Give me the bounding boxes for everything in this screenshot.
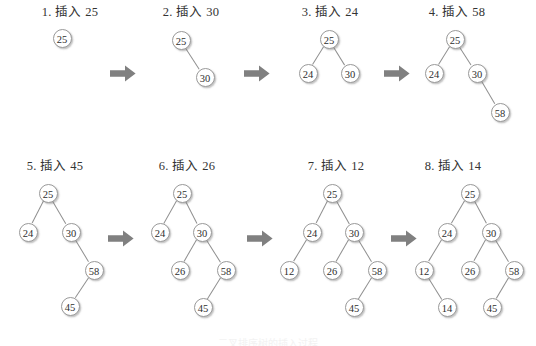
tree-edge-25-30 (459, 47, 472, 66)
arrow-7-to-8-icon (391, 230, 417, 247)
bst-insertion-figure: 二叉排序树的插入过程 1. 插入 252. 插入 303. 插入 244. 插入… (0, 0, 536, 346)
arrow-6-to-7-icon (247, 230, 273, 247)
tree-node: 24 (438, 223, 457, 242)
tree-panel-8: 2524301226581445 (0, 150, 536, 346)
tree-node: 30 (468, 64, 487, 83)
tree-node: 14 (438, 298, 457, 317)
tree-edge-30-58 (495, 240, 509, 262)
tree-node: 58 (491, 103, 510, 122)
tree-node: 26 (461, 261, 480, 280)
tree-edge-25-30 (474, 201, 487, 224)
arrow-3-to-4-icon (384, 65, 410, 82)
tree-node: 25 (461, 184, 480, 203)
tree-edge-58-45 (496, 278, 509, 299)
tree-edge-30-26 (474, 240, 487, 262)
tree-edge-30-58 (481, 81, 495, 104)
arrow-2-to-3-icon (244, 65, 270, 82)
tree-edge-25-24 (451, 201, 465, 224)
tree-node: 24 (425, 64, 444, 83)
arrow-1-to-2-icon (110, 65, 136, 82)
tree-edge-25-24 (438, 47, 450, 65)
tree-node: 45 (483, 298, 502, 317)
tree-node: 58 (505, 261, 524, 280)
tree-node: 25 (446, 30, 465, 49)
tree-edge-24-12 (428, 240, 442, 262)
tree-node: 30 (482, 223, 501, 242)
tree-edge-12-14 (428, 278, 442, 299)
tree-node: 12 (415, 261, 434, 280)
arrow-5-to-6-icon (108, 230, 134, 247)
